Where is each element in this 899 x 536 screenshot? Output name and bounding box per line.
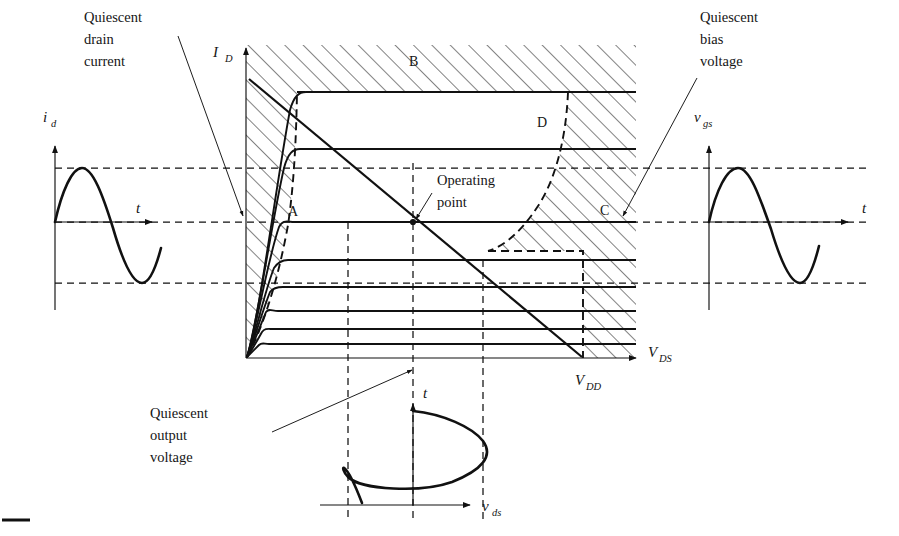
svg-text:DD: DD — [585, 381, 602, 392]
callout-leader-output-voltage — [272, 370, 412, 432]
svg-text:bias: bias — [700, 31, 724, 47]
svg-text:t: t — [423, 385, 428, 401]
svg-text:Quiescent: Quiescent — [84, 9, 142, 25]
vds-sine-trace — [343, 411, 487, 503]
region-label-c: C — [600, 203, 609, 218]
waveform-drain-current: i d t — [43, 109, 161, 310]
svg-text:ds: ds — [492, 507, 501, 518]
region-label-a: A — [288, 204, 299, 219]
callout-quiescent-output-voltage: Quiescent output voltage — [150, 370, 412, 465]
svg-text:voltage: voltage — [150, 449, 193, 465]
svg-text:voltage: voltage — [700, 53, 743, 69]
callout-leader-drain-current — [178, 36, 243, 216]
operating-point-marker — [410, 219, 416, 225]
svg-text:D: D — [224, 53, 233, 64]
svg-text:Quiescent: Quiescent — [150, 405, 208, 421]
id-sine-trace — [55, 168, 161, 283]
svg-text:gs: gs — [703, 118, 712, 129]
mosfet-load-line-figure: A B C D I D V DS V DD — [0, 0, 899, 536]
svg-text:V: V — [575, 372, 586, 388]
figure-canvas: { "figure": { "title_note": "MOSFET drai… — [0, 0, 899, 536]
svg-text:t: t — [136, 200, 141, 216]
svg-text:Quiescent: Quiescent — [700, 9, 758, 25]
svg-text:I: I — [212, 44, 219, 60]
waveform-gate-voltage: v gs t — [694, 109, 867, 310]
svg-text:drain: drain — [84, 31, 115, 47]
main-y-axis-label: I D — [212, 44, 233, 64]
svg-text:v: v — [694, 109, 701, 125]
svg-text:current: current — [84, 53, 125, 69]
svg-text:t: t — [862, 200, 867, 216]
callout-quiescent-bias-voltage: Quiescent bias voltage — [623, 9, 758, 216]
svg-text:i: i — [43, 109, 47, 125]
vdd-label: V DD — [575, 372, 602, 392]
svg-text:output: output — [150, 427, 187, 443]
svg-text:Operating: Operating — [437, 172, 495, 188]
region-label-d: D — [537, 115, 547, 130]
waveform-drain-voltage: t v ds — [320, 385, 501, 518]
svg-text:DS: DS — [658, 353, 673, 364]
main-x-axis-label: V DS — [648, 344, 673, 364]
svg-text:V: V — [648, 344, 659, 360]
vgs-sine-trace — [709, 168, 819, 283]
region-label-b: B — [409, 54, 418, 69]
svg-text:v: v — [482, 498, 489, 514]
svg-text:d: d — [51, 118, 57, 129]
svg-text:point: point — [437, 194, 467, 210]
callout-quiescent-drain-current: Quiescent drain current — [84, 9, 243, 216]
